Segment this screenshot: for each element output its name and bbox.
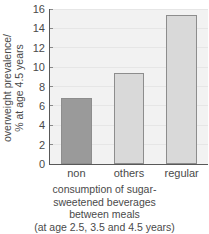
- y-axis-tick-label: 8: [39, 81, 45, 92]
- y-axis-tick-mark: [50, 28, 53, 29]
- y-axis-tick-mark: [50, 9, 53, 10]
- y-axis-line: [49, 9, 50, 165]
- bar-chart-figure: overweight prevalence/ % at age 4.5 year…: [0, 0, 209, 234]
- bar-non: [61, 98, 92, 164]
- caption-line-2: sweetened beverages: [0, 196, 209, 209]
- y-axis-tick-mark: [50, 86, 53, 87]
- bar-regular: [166, 15, 197, 164]
- bar-others: [114, 73, 145, 164]
- y-axis-tick-label: 6: [39, 100, 45, 111]
- caption-line-3: between meals: [0, 208, 209, 221]
- y-axis-tick-label: 10: [33, 62, 45, 73]
- y-axis-tick-label: 16: [33, 4, 45, 15]
- y-axis-tick-mark: [50, 47, 53, 48]
- y-axis-tick-label: 4: [39, 120, 45, 131]
- caption-line-1: consumption of sugar-: [0, 183, 209, 196]
- y-axis-tick-label: 14: [33, 23, 45, 34]
- gridline: [50, 9, 208, 10]
- x-axis-tick-label-others: others: [114, 167, 145, 180]
- x-axis-tick-labels: nonothersregular: [50, 167, 208, 181]
- y-axis-tick-label: 0: [39, 159, 45, 170]
- y-axis-tick-mark: [50, 125, 53, 126]
- y-axis-tick-labels: 0246810121416: [24, 9, 48, 164]
- y-axis-tick-mark: [50, 105, 53, 106]
- y-axis-tick-label: 12: [33, 42, 45, 53]
- x-axis-tick-label-non: non: [67, 167, 85, 180]
- caption-line-4: (at age 2.5, 3.5 and 4.5 years): [0, 221, 209, 234]
- y-axis-title: overweight prevalence/ % at age 4.5 year…: [0, 8, 26, 168]
- y-axis-title-line-1: overweight prevalence/: [1, 34, 13, 142]
- y-axis-tick-mark: [50, 67, 53, 68]
- x-axis-caption: consumption of sugar- sweetened beverage…: [0, 183, 209, 233]
- x-axis-line: [49, 164, 208, 165]
- y-axis-tick-mark: [50, 144, 53, 145]
- y-axis-tick-label: 2: [39, 139, 45, 150]
- x-axis-tick-label-regular: regular: [165, 167, 199, 180]
- plot-area: [50, 9, 208, 164]
